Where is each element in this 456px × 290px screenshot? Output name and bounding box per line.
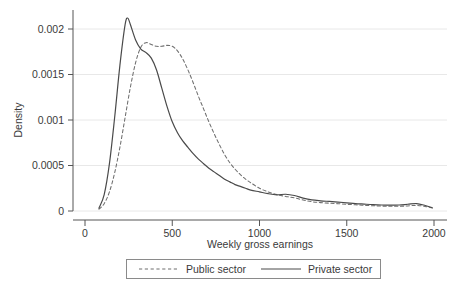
y-axis-title: Density (12, 102, 24, 138)
x-axis-title: Weekly gross earnings (207, 238, 313, 250)
x-tick-label-4: 2000 (422, 227, 446, 239)
legend: Public sector Private sector (127, 260, 381, 279)
x-tick-label-0: 0 (82, 227, 88, 239)
y-tick-label-1: 0.0005 (32, 159, 64, 171)
legend-label-public-sector: Public sector (186, 263, 247, 275)
y-tick-label-2: 0.001 (38, 114, 64, 126)
x-tick-label-1: 500 (163, 227, 181, 239)
y-tick-label-0: 0 (58, 205, 64, 217)
y-tick-label-4: 0.002 (38, 23, 64, 35)
x-tick-label-3: 1500 (335, 227, 359, 239)
legend-label-private-sector: Private sector (308, 263, 373, 275)
density-chart-figure: 00.00050.0010.00150.002 0500100015002000… (0, 0, 456, 290)
y-tick-label-3: 0.0015 (32, 68, 64, 80)
chart-canvas: 00.00050.0010.00150.002 0500100015002000… (0, 0, 456, 290)
